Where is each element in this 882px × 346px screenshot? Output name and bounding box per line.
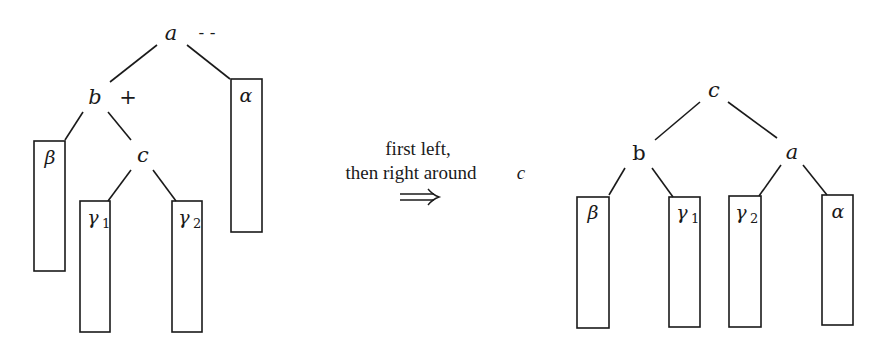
edge-a-gamma2 — [759, 165, 781, 196]
subtree-gamma1-sub: 1 — [102, 216, 110, 231]
node-a: a — [165, 21, 178, 45]
subtree-gamma1-sub: 1 — [691, 211, 699, 226]
node-a-annotation: - - — [199, 22, 216, 42]
subtree-gamma2-label: γ — [735, 201, 747, 223]
subtree-gamma2-sub: 2 — [193, 216, 201, 231]
edge-b-beta — [609, 168, 625, 195]
edge-b-gamma1 — [652, 168, 673, 197]
subtree-beta-label: β — [587, 201, 599, 223]
subtree-alpha-label: α — [832, 200, 845, 222]
edge-a-alpha — [803, 165, 827, 195]
node-c: c — [137, 143, 149, 167]
edge-b-c — [108, 112, 131, 140]
implies-arrow-icon — [400, 189, 439, 205]
node-b: b — [632, 141, 645, 165]
subtree-gamma2-label: γ — [178, 206, 190, 228]
subtree-gamma2-sub: 2 — [750, 211, 758, 226]
rotation-diagram: a - - b + c β γ 1 γ 2 α first left, then… — [0, 0, 882, 346]
edge-a-b — [110, 45, 157, 82]
subtree-beta-label: β — [44, 146, 56, 168]
transformation-caption: first left, then right around c — [346, 138, 526, 205]
edge-b-beta — [65, 112, 83, 140]
edge-c-gamma1 — [108, 170, 131, 201]
subtree-gamma1-label: γ — [676, 201, 688, 223]
node-a: a — [786, 140, 799, 164]
caption-line2-var: c — [517, 162, 526, 183]
right-tree: c b a β γ 1 γ 2 α — [577, 78, 853, 328]
node-b-annotation: + — [119, 85, 137, 109]
edge-a-alpha — [187, 45, 230, 79]
left-tree: a - - b + c β γ 1 γ 2 α — [34, 21, 262, 332]
edge-c-b — [655, 102, 700, 140]
caption-line2: then right around — [346, 162, 477, 183]
edge-c-gamma2 — [153, 170, 176, 201]
node-c: c — [708, 78, 720, 102]
node-b: b — [88, 85, 101, 109]
edge-c-a — [728, 102, 777, 138]
subtree-alpha-label: α — [240, 84, 253, 106]
caption-line1: first left, — [385, 138, 450, 159]
subtree-gamma1-label: γ — [87, 206, 99, 228]
